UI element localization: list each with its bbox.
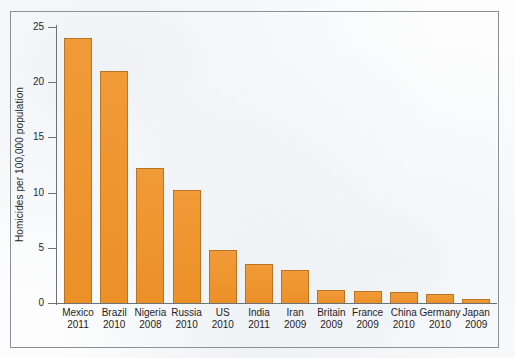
bar [64, 38, 92, 303]
bar [281, 270, 309, 303]
x-axis-label-country: Japan [446, 307, 506, 319]
y-axis-tick-label: 25 [33, 20, 44, 33]
bar [390, 292, 418, 303]
y-axis-tick-label: 5 [38, 241, 44, 254]
y-axis-tick: 5 [48, 248, 56, 249]
bar [462, 299, 490, 303]
x-axis-label-year: 2009 [446, 319, 506, 331]
x-axis-label: Japan2009 [446, 307, 506, 331]
chart-page: Homicides per 100,000 population 0510152… [0, 0, 515, 358]
y-axis-tick: 20 [48, 82, 56, 83]
y-axis-title: Homicides per 100,000 population [14, 60, 28, 270]
bar [317, 290, 345, 303]
y-axis-tick: 25 [48, 27, 56, 28]
y-axis-tick: 15 [48, 137, 56, 138]
y-axis-tick: 0 [48, 303, 56, 304]
plot-area: 0510152025 [56, 27, 496, 303]
x-axis-line [56, 303, 497, 304]
y-axis-tick: 10 [48, 193, 56, 194]
bar [426, 294, 454, 303]
y-axis-tick-label: 15 [33, 130, 44, 143]
bar [173, 190, 201, 303]
bar [100, 71, 128, 303]
bar [209, 250, 237, 303]
y-axis-tick-label: 10 [33, 186, 44, 199]
y-axis-tick-label: 0 [38, 296, 44, 309]
bar [354, 291, 382, 303]
y-axis-tick-label: 20 [33, 75, 44, 88]
bar [245, 264, 273, 303]
bar [136, 168, 164, 303]
